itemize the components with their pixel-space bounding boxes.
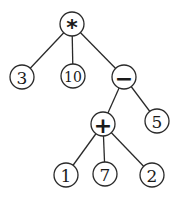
tree-node-n3: 3 [10, 65, 34, 89]
tree-edges [22, 24, 157, 175]
operator-label: + [94, 113, 112, 138]
tree-node-n2: 2 [140, 163, 164, 187]
operator-label: − [115, 66, 133, 91]
tree-node-n10: 10 [61, 64, 85, 88]
operand-label: 2 [147, 166, 158, 186]
tree-node-minus: − [112, 65, 136, 91]
operand-label: 3 [17, 68, 28, 88]
tree-node-n7: 7 [93, 162, 117, 186]
tree-node-n1: 1 [54, 163, 78, 187]
operand-label: 5 [152, 112, 163, 132]
operator-label: * [66, 15, 78, 40]
expression-tree-diagram: *310−+5172 [0, 0, 187, 199]
operand-label: 10 [64, 69, 82, 85]
tree-nodes: *310−+5172 [10, 12, 169, 187]
operand-label: 1 [61, 166, 72, 186]
tree-node-root: * [60, 12, 84, 40]
tree-node-plus: + [91, 112, 115, 138]
tree-node-n5: 5 [145, 109, 169, 133]
operand-label: 7 [100, 165, 111, 185]
